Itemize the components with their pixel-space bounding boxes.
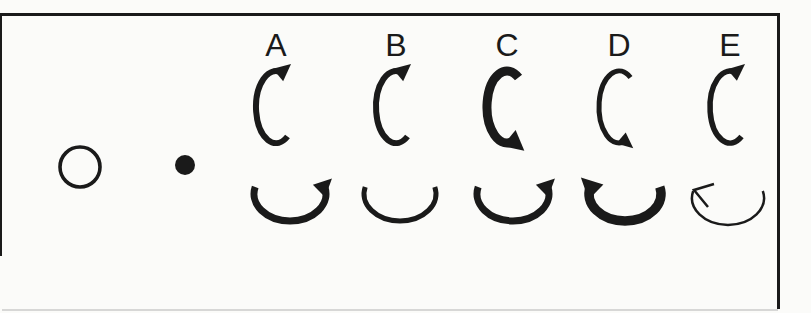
frame-bottom-edge-faint (2, 309, 778, 311)
arrow-c-bottom-counterclockwise-icon (471, 182, 555, 230)
option-label-e: E (710, 29, 750, 61)
option-label-c: C (487, 29, 527, 61)
arrow-d-bottom-clockwise-icon (583, 182, 667, 230)
scanned-figure: ABCDE (0, 0, 811, 313)
option-label-a: A (256, 29, 296, 61)
arrow-d-top-counterclockwise-icon (593, 60, 649, 152)
arrow-a-bottom-counterclockwise-icon (248, 182, 332, 230)
arrow-e-top-clockwise-icon (704, 60, 760, 152)
open-circle-icon (57, 144, 103, 190)
option-label-b: B (376, 29, 416, 61)
frame-top-edge (0, 13, 780, 16)
frame-left-edge (0, 14, 2, 256)
arrow-a-top-clockwise-icon (250, 60, 306, 152)
frame-right-edge (777, 13, 780, 309)
filled-dot-icon (175, 155, 195, 175)
arrow-e-bottom-clockwise-icon (686, 182, 770, 230)
arrow-b-bottom-plain-arc-icon (358, 182, 442, 230)
arrow-b-top-clockwise-icon (370, 60, 426, 152)
arrow-c-top-counterclockwise-icon (481, 60, 537, 152)
option-label-d: D (599, 29, 639, 61)
